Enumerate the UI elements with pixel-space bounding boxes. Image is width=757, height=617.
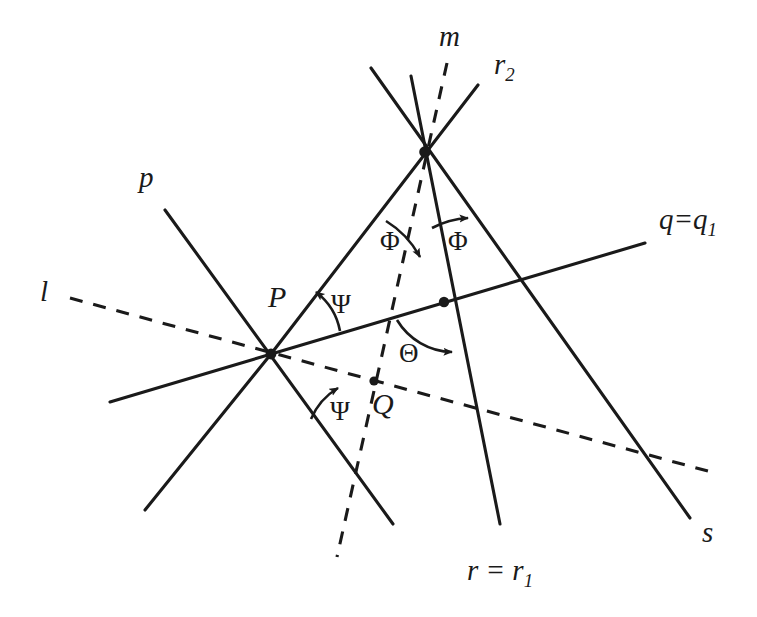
label-line-r-subscript: 1 xyxy=(524,570,533,591)
label-line-l: l xyxy=(40,277,48,306)
line-r2 xyxy=(271,85,478,354)
label-point-Q: Q xyxy=(372,389,394,419)
label-point-P: P xyxy=(268,282,286,312)
label-line-p: p xyxy=(139,163,154,192)
label-angle-psi-lower: Ψ xyxy=(330,398,350,425)
label-angle-phi-right: Φ xyxy=(448,228,468,255)
label-line-s: s xyxy=(702,518,713,547)
label-line-m: m xyxy=(439,22,460,51)
label-line-q-subscript: 1 xyxy=(708,219,717,240)
line-p xyxy=(165,210,393,524)
line-s xyxy=(371,68,690,518)
label-line-r-base: r = r xyxy=(467,554,524,586)
label-line-q-base: q=q xyxy=(659,203,708,235)
label-angle-phi-left: Φ xyxy=(380,228,400,255)
point-Q-dot xyxy=(369,376,378,385)
label-line-r2-subscript: 2 xyxy=(505,64,514,85)
label-angle-theta: Θ xyxy=(399,340,419,367)
point-P-dot xyxy=(266,349,277,360)
label-line-r2: r2 xyxy=(494,50,515,85)
solid-lines xyxy=(110,68,690,524)
line-p-lower-left xyxy=(145,354,271,510)
label-line-r: r = r1 xyxy=(467,556,533,591)
label-line-r2-base: r xyxy=(494,48,505,80)
label-line-q: q=q1 xyxy=(659,205,717,240)
point-M-dot xyxy=(439,297,449,307)
label-angle-psi-upper: Ψ xyxy=(331,291,351,318)
point-T-dot xyxy=(419,146,431,158)
geometry-figure: m r2 p l q=q1 s r = r1 P Q Φ Φ Ψ Ψ Θ xyxy=(0,0,757,617)
geometry-canvas xyxy=(0,0,757,617)
line-m xyxy=(337,63,447,557)
